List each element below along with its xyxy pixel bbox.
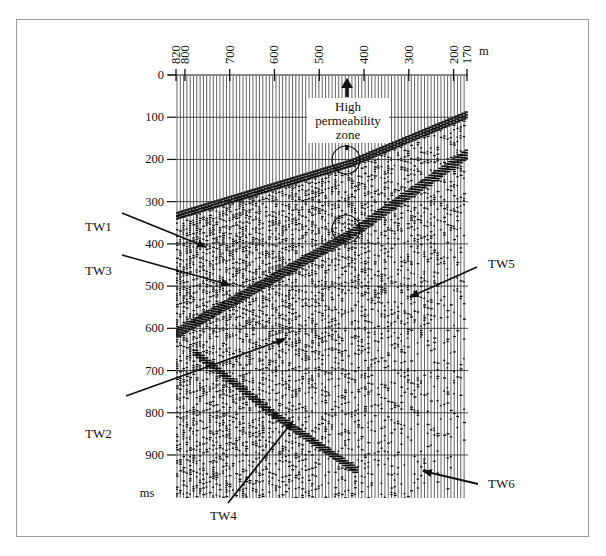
distance-tick-label: 700 (223, 45, 237, 64)
time-tick-label: 600 (145, 321, 164, 335)
seismic-record-figure: 820800700600500400300200170 m 0100200300… (0, 0, 606, 556)
time-tick-label: 700 (145, 364, 164, 378)
tw6-label: TW6 (488, 476, 515, 491)
distance-tick-label: 600 (267, 45, 281, 64)
time-tick-label: 800 (145, 406, 164, 420)
distance-tick-label: 200 (447, 45, 461, 64)
time-tick-label: 100 (145, 110, 164, 124)
distance-axis: 820800700600500400300200170 m (168, 44, 489, 81)
tw3-label: TW3 (85, 263, 112, 278)
distance-tick-label: 300 (402, 45, 416, 64)
callout-line-2: permeability (315, 113, 381, 128)
tw2-label: TW2 (85, 426, 112, 441)
arrow-up-icon (341, 78, 353, 88)
tw1-label: TW1 (85, 219, 112, 234)
tw4-label: TW4 (210, 508, 237, 523)
distance-tick-label: 400 (357, 45, 371, 64)
distance-tick-label: 500 (312, 45, 326, 64)
time-tick-label: 500 (145, 279, 164, 293)
distance-tick-label: 170 (460, 45, 474, 64)
distance-unit-label: m (479, 44, 489, 58)
time-tick-label: 900 (145, 448, 164, 462)
distance-tick-label: 800 (178, 45, 192, 64)
time-tick-label: 0 (158, 68, 164, 82)
tw5-label: TW5 (488, 256, 515, 271)
callout-line-1: High (335, 99, 362, 114)
time-unit-label: ms (140, 486, 155, 500)
time-tick-label: 200 (145, 152, 164, 166)
time-tick-label: 400 (145, 237, 164, 251)
callout-line-3: zone (336, 127, 361, 142)
time-tick-label: 300 (145, 195, 164, 209)
